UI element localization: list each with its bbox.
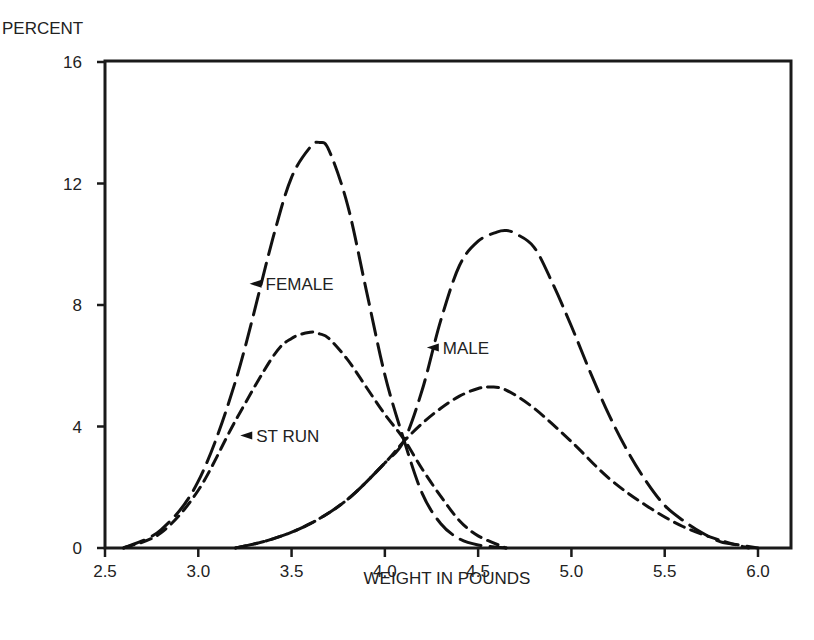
y-tick-label: 12 <box>63 175 82 194</box>
y-axis: 0481216 <box>63 53 105 558</box>
y-tick-label: 8 <box>73 296 82 315</box>
annotation-label: MALE <box>443 339 489 358</box>
x-tick-label: 5.5 <box>653 562 677 581</box>
x-tick-label: 6.0 <box>746 562 770 581</box>
annotation-label: ST RUN <box>256 427 319 446</box>
x-tick-label: 5.0 <box>560 562 584 581</box>
x-tick-label: 4.0 <box>373 562 397 581</box>
chart: PERCENT WEIGHT IN POUNDS 0481216 2.53.03… <box>0 0 814 640</box>
x-tick-label: 3.0 <box>186 562 210 581</box>
y-axis-title: PERCENT <box>2 19 83 38</box>
annotations: FEMALEST RUNMALE <box>240 275 489 446</box>
annotation-arrow-icon <box>240 432 252 440</box>
x-tick-label: 3.5 <box>280 562 304 581</box>
y-tick-label: 0 <box>73 539 82 558</box>
annotation-arrow-icon <box>250 280 262 288</box>
series-line-st-run-male <box>236 387 749 548</box>
series-layer <box>124 142 758 548</box>
x-tick-label: 2.5 <box>93 562 117 581</box>
x-tick-label: 4.5 <box>466 562 490 581</box>
y-tick-label: 4 <box>73 418 82 437</box>
y-tick-label: 16 <box>63 53 82 72</box>
annotation-label: FEMALE <box>266 275 334 294</box>
